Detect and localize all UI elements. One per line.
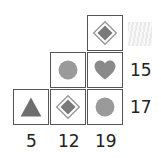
hidden-row-sum-box — [128, 22, 152, 46]
cell-r2-c1-diamond — [50, 89, 86, 125]
cell-r0-c2-diamond — [87, 15, 123, 51]
circle-icon — [88, 90, 122, 124]
cell-r2-c0-triangle — [13, 89, 49, 125]
row-sum-1: 15 — [130, 62, 152, 79]
diamond-in-diamond-icon — [88, 16, 122, 50]
cell-r1-c1-circle — [50, 52, 86, 88]
heart-icon — [88, 53, 122, 87]
diamond-in-diamond-icon — [51, 90, 85, 124]
circle-icon — [51, 53, 85, 87]
cell-r2-c2-circle — [87, 89, 123, 125]
cell-r1-c2-heart — [87, 52, 123, 88]
triangle-icon — [14, 90, 48, 124]
col-sum-1: 12 — [58, 133, 80, 150]
col-sum-0: 5 — [26, 133, 37, 150]
row-sum-2: 17 — [130, 99, 152, 116]
col-sum-2: 19 — [95, 133, 117, 150]
